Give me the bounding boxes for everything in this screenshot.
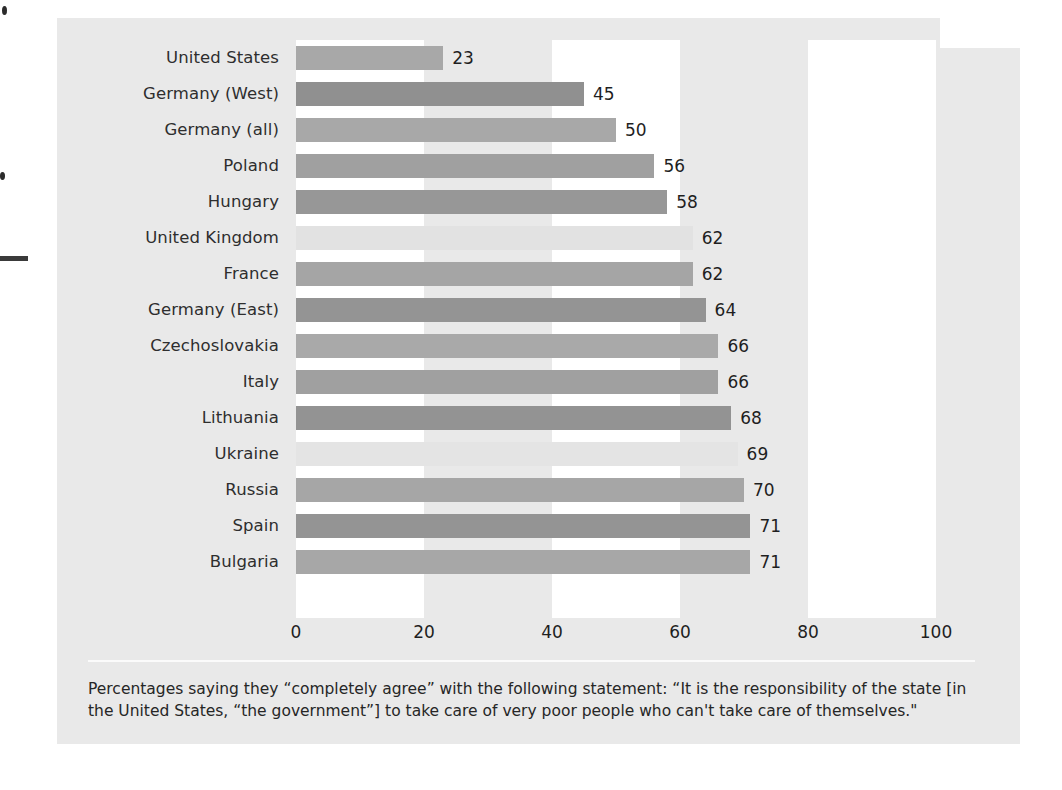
bar (296, 550, 750, 574)
bar (296, 406, 731, 430)
bar (296, 118, 616, 142)
bar (296, 334, 718, 358)
bar-value-label: 62 (702, 220, 724, 256)
category-label: Italy (57, 364, 279, 400)
category-label: Germany (East) (57, 292, 279, 328)
category-label: Hungary (57, 184, 279, 220)
category-label: Czechoslovakia (57, 328, 279, 364)
category-label: Ukraine (57, 436, 279, 472)
category-label: United States (57, 40, 279, 76)
bar (296, 154, 654, 178)
bar-row: France62 (57, 256, 936, 292)
scan-speck-icon (0, 172, 5, 180)
category-label: Germany (West) (57, 76, 279, 112)
x-tick-label: 0 (291, 622, 302, 642)
bar-row: Lithuania68 (57, 400, 936, 436)
bar-row: Poland56 (57, 148, 936, 184)
scanned-page: United States23Germany (West)45Germany (… (0, 0, 1062, 790)
bar-value-label: 56 (663, 148, 685, 184)
panel-corner-notch (940, 18, 1020, 48)
bar (296, 226, 693, 250)
bar-value-label: 68 (740, 400, 762, 436)
bar (296, 514, 750, 538)
x-axis: 020406080100 (296, 622, 936, 652)
bar-value-label: 66 (727, 364, 749, 400)
bar-row: Bulgaria71 (57, 544, 936, 580)
x-tick-label: 100 (920, 622, 952, 642)
bar (296, 442, 738, 466)
category-label: Russia (57, 472, 279, 508)
x-tick-label: 60 (669, 622, 691, 642)
bar-value-label: 69 (747, 436, 769, 472)
bar-row: Spain71 (57, 508, 936, 544)
bar-value-label: 66 (727, 328, 749, 364)
bar (296, 262, 693, 286)
bar-value-label: 50 (625, 112, 647, 148)
bar (296, 478, 744, 502)
bar-row: Czechoslovakia66 (57, 328, 936, 364)
bar-value-label: 71 (759, 544, 781, 580)
category-label: Spain (57, 508, 279, 544)
bar-row: United Kingdom62 (57, 220, 936, 256)
bar-row: Germany (West)45 (57, 76, 936, 112)
bar-value-label: 62 (702, 256, 724, 292)
bar (296, 46, 443, 70)
scan-speck-icon (2, 6, 7, 15)
bar-row: Ukraine69 (57, 436, 936, 472)
category-label: Germany (all) (57, 112, 279, 148)
bar-row: Germany (East)64 (57, 292, 936, 328)
bar-value-label: 70 (753, 472, 775, 508)
figure-panel: United States23Germany (West)45Germany (… (57, 18, 1020, 744)
bar-value-label: 71 (759, 508, 781, 544)
bar-row: Hungary58 (57, 184, 936, 220)
x-tick-label: 20 (413, 622, 435, 642)
category-label: Lithuania (57, 400, 279, 436)
bar (296, 82, 584, 106)
figure-caption: Percentages saying they “completely agre… (88, 678, 978, 722)
category-label: United Kingdom (57, 220, 279, 256)
bar-row: United States23 (57, 40, 936, 76)
bar (296, 190, 667, 214)
page-edge-mark (0, 256, 28, 261)
bar-value-label: 45 (593, 76, 615, 112)
bar (296, 298, 706, 322)
category-label: France (57, 256, 279, 292)
bar-row: Germany (all)50 (57, 112, 936, 148)
bar-value-label: 64 (715, 292, 737, 328)
category-label: Bulgaria (57, 544, 279, 580)
category-label: Poland (57, 148, 279, 184)
bar-value-label: 23 (452, 40, 474, 76)
bar (296, 370, 718, 394)
plot-area: United States23Germany (West)45Germany (… (296, 40, 936, 618)
x-tick-label: 40 (541, 622, 563, 642)
caption-divider (88, 660, 975, 662)
bar-value-label: 58 (676, 184, 698, 220)
x-tick-label: 80 (797, 622, 819, 642)
bar-row: Italy66 (57, 364, 936, 400)
bar-row: Russia70 (57, 472, 936, 508)
